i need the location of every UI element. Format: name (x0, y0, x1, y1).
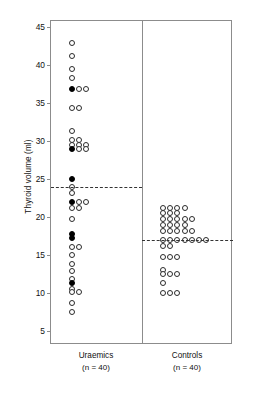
data-point (167, 228, 173, 234)
data-point (69, 86, 75, 92)
data-point (160, 280, 166, 286)
data-point (182, 216, 188, 222)
data-point (69, 146, 75, 152)
data-point (167, 290, 173, 296)
y-tick-label-25: 25 (36, 174, 45, 184)
data-point (69, 176, 75, 182)
data-point (174, 228, 180, 234)
y-tick-label-10: 10 (36, 288, 45, 298)
y-tick-mark-25 (47, 179, 51, 180)
y-axis-title: Thyroid volume (ml) (24, 92, 33, 262)
data-point (69, 190, 75, 196)
data-point (69, 40, 75, 46)
y-tick-mark-40 (47, 65, 51, 66)
data-point (76, 105, 82, 111)
data-point (69, 105, 75, 111)
data-point (76, 86, 82, 92)
data-point (160, 254, 166, 260)
panel-divider (142, 21, 143, 343)
data-point (189, 228, 195, 234)
data-point (189, 216, 195, 222)
category-label-controls-n: (n = 40) (142, 362, 232, 374)
category-label-uraemics-n: (n = 40) (50, 362, 142, 374)
y-tick-mark-15 (47, 255, 51, 256)
data-point (167, 271, 173, 277)
data-point (174, 290, 180, 296)
data-point (69, 261, 75, 267)
data-point (76, 199, 82, 205)
data-point (69, 268, 75, 274)
data-point (167, 216, 173, 222)
data-point (83, 199, 89, 205)
data-point (174, 254, 180, 260)
y-tick-mark-35 (47, 103, 51, 104)
data-point (69, 199, 75, 205)
y-tick-label-30: 30 (36, 136, 45, 146)
data-point (69, 53, 75, 59)
y-tick-label-15: 15 (36, 250, 45, 260)
data-point (160, 243, 166, 249)
data-point (83, 146, 89, 152)
data-point (182, 205, 188, 211)
y-tick-label-5: 5 (40, 326, 45, 336)
data-point (69, 235, 75, 241)
category-label-uraemics: Uraemics (n = 40) (50, 350, 142, 374)
y-tick-mark-10 (47, 293, 51, 294)
data-point (167, 254, 173, 260)
data-point (69, 309, 75, 315)
y-tick-label-45: 45 (36, 22, 45, 32)
data-point (69, 289, 75, 295)
data-point (69, 252, 75, 258)
data-point (160, 290, 166, 296)
data-point (69, 216, 75, 222)
y-tick-label-20: 20 (36, 212, 45, 222)
data-point (174, 216, 180, 222)
data-point (83, 86, 89, 92)
plot-frame: 51015202530354045 (50, 20, 232, 344)
dot-plot-figure: Thyroid volume (ml) 51015202530354045 Ur… (0, 0, 253, 399)
data-point (76, 205, 82, 211)
y-tick-mark-45 (47, 27, 51, 28)
data-point (76, 146, 82, 152)
y-tick-mark-30 (47, 141, 51, 142)
data-point (69, 300, 75, 306)
data-point (160, 228, 166, 234)
data-point (69, 244, 75, 250)
reference-line-controls (142, 240, 233, 241)
reference-line-uraemics (51, 187, 142, 188)
data-point (160, 216, 166, 222)
data-point (69, 66, 75, 72)
data-point (69, 75, 75, 81)
y-tick-mark-5 (47, 331, 51, 332)
category-label-uraemics-text: Uraemics (79, 351, 114, 360)
data-point (76, 289, 82, 295)
data-point (182, 228, 188, 234)
data-point (160, 271, 166, 277)
category-label-controls: Controls (n = 40) (142, 350, 232, 374)
y-tick-label-35: 35 (36, 98, 45, 108)
data-point (69, 205, 75, 211)
y-tick-label-40: 40 (36, 60, 45, 70)
data-point (167, 243, 173, 249)
data-point (76, 244, 82, 250)
data-point (174, 271, 180, 277)
category-label-controls-text: Controls (172, 351, 203, 360)
data-point (69, 128, 75, 134)
y-tick-mark-20 (47, 217, 51, 218)
